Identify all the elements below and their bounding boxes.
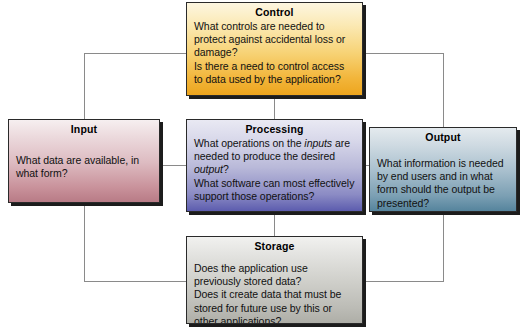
connector-control-to-input-vertical — [84, 53, 85, 120]
control-box-body: What controls are needed to protect agai… — [194, 20, 355, 86]
control-box-title: Control — [194, 6, 355, 19]
input-box-body: What data are available, in what form? — [16, 154, 152, 180]
connector-input-to-processing — [159, 165, 187, 166]
input-box-title: Input — [16, 123, 152, 136]
processing-box[interactable]: Processing What operations on the inputs… — [186, 119, 363, 212]
control-box-line-1: What controls are needed to protect agai… — [194, 20, 355, 60]
storage-box-title: Storage — [194, 240, 355, 253]
connector-processing-to-storage — [274, 211, 275, 237]
processing-box-line-2: What software can most effectively suppo… — [194, 177, 355, 203]
input-box[interactable]: Input What data are available, in what f… — [8, 119, 160, 203]
storage-box-line-2: Does it create data that must be stored … — [194, 288, 355, 324]
connector-control-to-processing — [274, 95, 275, 120]
processing-box-body: What operations on the inputs are needed… — [194, 137, 355, 203]
connector-control-to-input-horizontal — [84, 53, 187, 54]
control-box-line-2: Is there a need to control access to dat… — [194, 60, 355, 86]
processing-box-title: Processing — [194, 123, 355, 136]
diagram-canvas: Control What controls are needed to prot… — [0, 0, 526, 329]
connector-output-to-storage-horizontal — [362, 281, 444, 282]
output-box-title: Output — [377, 131, 509, 144]
connector-output-to-storage-vertical — [443, 211, 444, 281]
connector-control-to-output-vertical — [443, 53, 444, 128]
output-box-line-1: What information is needed by end users … — [377, 157, 509, 210]
output-box[interactable]: Output What information is needed by end… — [369, 127, 517, 212]
storage-box-body: Does the application use previously stor… — [194, 262, 355, 324]
input-box-line-1: What data are available, in what form? — [16, 154, 152, 180]
processing-box-line-1: What operations on the inputs are needed… — [194, 137, 355, 177]
output-box-body: What information is needed by end users … — [377, 157, 509, 210]
connector-input-to-storage-horizontal — [84, 281, 187, 282]
connector-control-to-output-horizontal — [362, 53, 443, 54]
connector-input-to-storage-vertical — [84, 202, 85, 281]
control-box[interactable]: Control What controls are needed to prot… — [186, 2, 363, 96]
storage-box-line-1: Does the application use previously stor… — [194, 262, 355, 288]
storage-box[interactable]: Storage Does the application use previou… — [186, 236, 363, 324]
